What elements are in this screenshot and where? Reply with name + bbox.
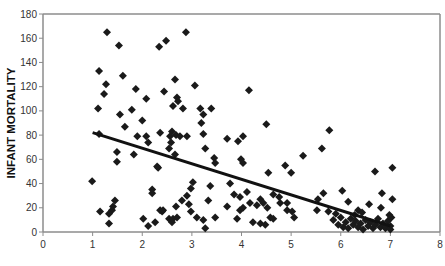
x-tick-label: 5: [288, 239, 294, 250]
y-tick-label: 0: [31, 227, 37, 238]
x-tick-label: 7: [388, 239, 394, 250]
y-tick-label: 80: [26, 130, 38, 141]
y-axis-title: INFANT MORTALITY: [5, 67, 17, 178]
y-tick-label: 160: [20, 33, 37, 44]
y-tick-label: 40: [26, 178, 38, 189]
y-tick-label: 100: [20, 105, 37, 116]
x-tick-label: 2: [139, 239, 145, 250]
x-tick-label: 0: [40, 239, 46, 250]
y-tick-label: 180: [20, 9, 37, 20]
x-tick-label: 4: [239, 239, 245, 250]
scatter-chart: 020406080100120140160180 012345678 INFAN…: [0, 0, 445, 266]
y-tick-label: 60: [26, 154, 38, 165]
x-tick-label: 3: [189, 239, 195, 250]
y-tick-label: 20: [26, 202, 38, 213]
y-tick-label: 120: [20, 81, 37, 92]
x-tick-label: 8: [437, 239, 443, 250]
x-tick-label: 6: [338, 239, 344, 250]
y-tick-label: 140: [20, 57, 37, 68]
x-tick-label: 1: [90, 239, 96, 250]
